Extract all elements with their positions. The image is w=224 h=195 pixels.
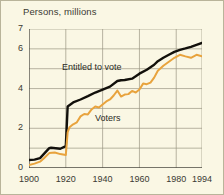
y-tick-label: 2 (7, 122, 23, 132)
y-tick-label: 6 (7, 43, 23, 53)
x-tick-label: 1994 (187, 174, 217, 184)
plot-area (29, 29, 202, 168)
y-tick-label: 4 (7, 83, 23, 93)
y-tick-label: 0 (7, 162, 23, 172)
series-label: Voters (95, 113, 121, 123)
series-label: Entitled to vote (62, 62, 122, 72)
y-tick-label: 7 (7, 23, 23, 33)
x-tick-label: 1960 (124, 174, 154, 184)
chart-svg (29, 29, 202, 168)
x-tick-label: 1900 (14, 174, 44, 184)
chart-axis-title: Persons, millions (23, 6, 97, 17)
x-tick-label: 1920 (51, 174, 81, 184)
chart-frame: Persons, millions 02467 1900192019401960… (0, 0, 224, 195)
x-tick-label: 1940 (88, 174, 118, 184)
